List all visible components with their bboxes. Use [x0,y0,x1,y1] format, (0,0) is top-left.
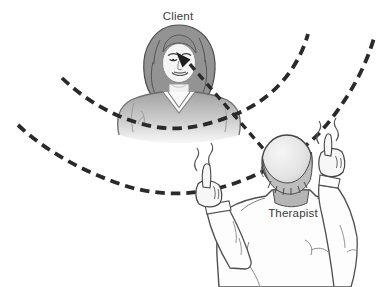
therapist-label: Therapist [258,207,328,220]
client-figure [118,25,241,143]
therapist-right-index-finger [324,134,331,156]
diagram-canvas [0,0,391,287]
client-eye-left [172,59,174,61]
emdr-therapy-diagram: Client Therapist [0,0,391,287]
therapist-figure [195,118,358,287]
client-label: Client [155,10,201,23]
therapist-left-index-finger [202,164,210,188]
client-face [163,44,196,83]
